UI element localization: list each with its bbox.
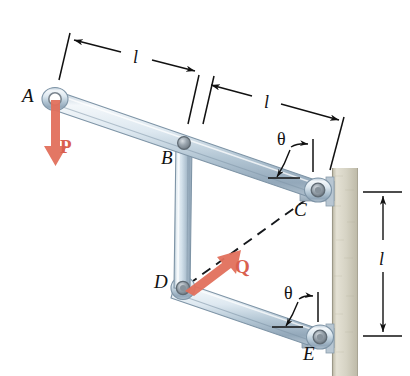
point-label-e: E — [303, 344, 315, 363]
point-label-d: D — [154, 272, 168, 291]
angle-label-theta-bottom: θ — [284, 284, 293, 302]
dimension-label-l-ce: l — [379, 250, 384, 268]
mechanics-figure: A B C D E P Q l l l θ θ — [0, 0, 410, 376]
force-label-p: P — [60, 136, 72, 158]
angle-label-theta-top: θ — [277, 130, 286, 148]
pin-c — [311, 183, 325, 197]
wall — [332, 168, 358, 376]
dimension-label-l-bc: l — [264, 93, 269, 111]
member-vertical-link-bd — [174, 142, 192, 289]
force-arrow-q — [185, 250, 241, 296]
point-label-b: B — [161, 148, 173, 167]
point-label-a: A — [22, 86, 34, 105]
dimension-label-l-ab: l — [133, 48, 138, 66]
figure-canvas — [0, 0, 410, 376]
pin-b — [178, 137, 191, 150]
force-label-q: Q — [235, 256, 250, 278]
pin-d — [176, 281, 189, 294]
pin-e — [313, 330, 327, 344]
point-label-c: C — [294, 200, 307, 219]
dashed-reference-line-cd — [193, 199, 307, 281]
